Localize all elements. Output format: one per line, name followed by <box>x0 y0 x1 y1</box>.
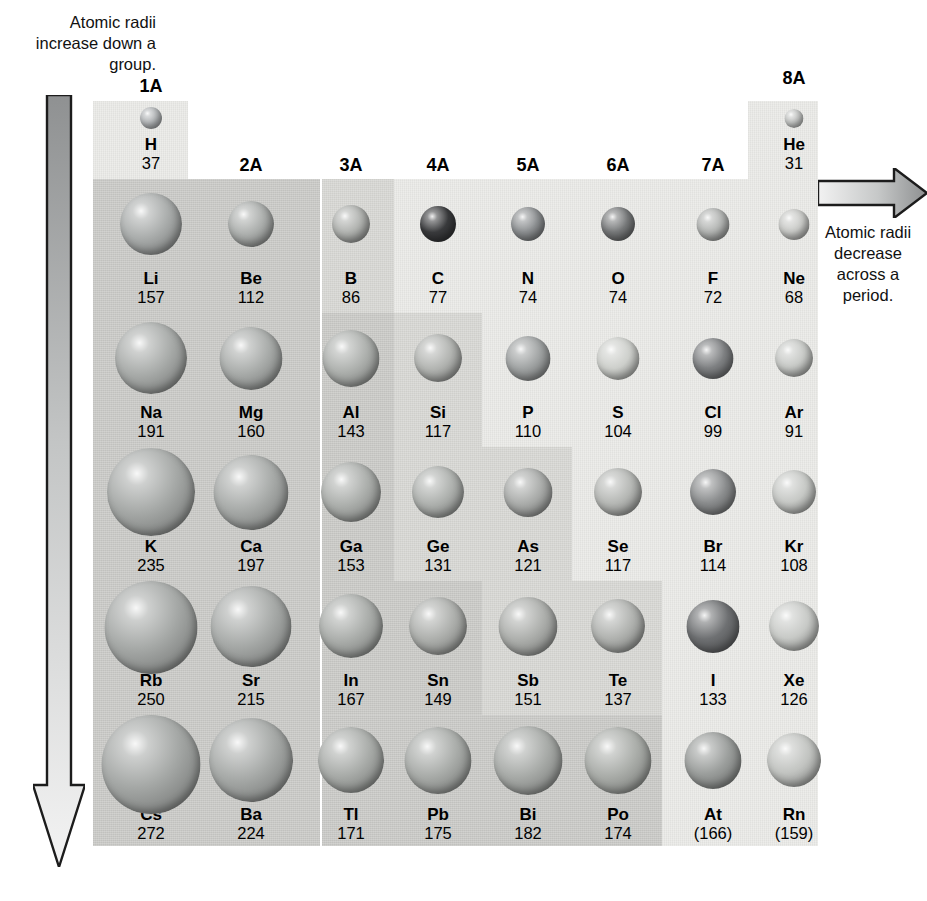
element-radius-value: 224 <box>205 824 297 843</box>
element-cell-ba[interactable]: Ba224 <box>205 715 297 843</box>
element-symbol: Al <box>305 403 397 422</box>
element-cell-ga[interactable]: Ga153 <box>305 447 397 575</box>
element-radius-value: 112 <box>205 288 297 307</box>
atom-sphere-s <box>597 337 640 380</box>
atom-sphere-he <box>785 109 804 128</box>
element-cell-al[interactable]: Al143 <box>305 313 397 441</box>
element-symbol: As <box>482 537 574 556</box>
element-symbol: Sn <box>392 671 484 690</box>
element-symbol: B <box>305 269 397 288</box>
element-symbol: Sb <box>482 671 574 690</box>
element-cell-si[interactable]: Si117 <box>392 313 484 441</box>
element-cell-ge[interactable]: Ge131 <box>392 447 484 575</box>
element-cell-n[interactable]: N74 <box>482 179 574 307</box>
element-radius-value: 31 <box>748 154 840 173</box>
element-radius-value: 151 <box>482 690 574 709</box>
element-cell-xe[interactable]: Xe126 <box>748 581 840 709</box>
element-symbol: Sr <box>205 671 297 690</box>
element-cell-kr[interactable]: Kr108 <box>748 447 840 575</box>
sphere-area <box>305 715 397 805</box>
atom-sphere-f <box>697 208 730 241</box>
sphere-area <box>392 447 484 537</box>
sphere-area <box>482 715 574 805</box>
atom-sphere-bi <box>494 726 563 795</box>
atom-sphere-rn <box>767 733 821 787</box>
sphere-area <box>305 447 397 537</box>
element-cell-ne[interactable]: Ne68 <box>748 179 840 307</box>
atom-sphere-ne <box>779 209 810 240</box>
element-radius-value: 160 <box>205 422 297 441</box>
group-header-3a: 3A <box>321 155 381 176</box>
element-cell-cl[interactable]: Cl99 <box>667 313 759 441</box>
atom-sphere-i <box>687 600 740 653</box>
element-cell-in[interactable]: In167 <box>305 581 397 709</box>
sphere-area <box>748 313 840 403</box>
element-radius-value: (166) <box>667 824 759 843</box>
sphere-area <box>305 313 397 403</box>
element-cell-i[interactable]: I133 <box>667 581 759 709</box>
element-symbol: In <box>305 671 397 690</box>
atom-sphere-b <box>332 205 370 243</box>
element-cell-b[interactable]: B86 <box>305 179 397 307</box>
element-cell-te[interactable]: Te137 <box>572 581 664 709</box>
element-symbol: Rn <box>748 805 840 824</box>
element-cell-ca[interactable]: Ca197 <box>205 447 297 575</box>
element-symbol: S <box>572 403 664 422</box>
element-cell-p[interactable]: P110 <box>482 313 574 441</box>
sphere-area <box>748 447 840 537</box>
element-symbol: F <box>667 269 759 288</box>
element-radius-value: 117 <box>572 556 664 575</box>
element-cell-sr[interactable]: Sr215 <box>205 581 297 709</box>
element-cell-po[interactable]: Po174 <box>572 715 664 843</box>
annotation-down-a-group: Atomic radii increase down a group. <box>6 12 156 75</box>
atom-sphere-pb <box>405 727 472 794</box>
element-cell-rn[interactable]: Rn(159) <box>748 715 840 843</box>
element-cell-rb[interactable]: Rb250 <box>105 581 197 709</box>
element-radius-value: 137 <box>572 690 664 709</box>
element-cell-c[interactable]: C77 <box>392 179 484 307</box>
element-cell-s[interactable]: S104 <box>572 313 664 441</box>
element-symbol: I <box>667 671 759 690</box>
element-cell-bi[interactable]: Bi182 <box>482 715 574 843</box>
element-cell-sn[interactable]: Sn149 <box>392 581 484 709</box>
atom-sphere-o <box>601 207 635 241</box>
element-cell-br[interactable]: Br114 <box>667 447 759 575</box>
sphere-area <box>105 581 197 671</box>
element-symbol: Ca <box>205 537 297 556</box>
sphere-area <box>482 581 574 671</box>
element-cell-he[interactable]: He31 <box>748 101 840 173</box>
element-cell-pb[interactable]: Pb175 <box>392 715 484 843</box>
element-symbol: Pb <box>392 805 484 824</box>
sphere-area <box>205 715 297 805</box>
element-cell-k[interactable]: K235 <box>105 447 197 575</box>
element-cell-se[interactable]: Se117 <box>572 447 664 575</box>
element-cell-o[interactable]: O74 <box>572 179 664 307</box>
element-cell-h[interactable]: H37 <box>105 101 197 173</box>
atom-sphere-c <box>420 206 456 242</box>
sphere-area <box>205 179 297 269</box>
element-cell-li[interactable]: Li157 <box>105 179 197 307</box>
atom-sphere-cs <box>102 715 201 814</box>
element-cell-sb[interactable]: Sb151 <box>482 581 574 709</box>
element-symbol: P <box>482 403 574 422</box>
element-cell-as[interactable]: As121 <box>482 447 574 575</box>
group-header-7a: 7A <box>683 155 743 176</box>
element-cell-tl[interactable]: Tl171 <box>305 715 397 843</box>
element-cell-cs[interactable]: Cs272 <box>105 715 197 843</box>
element-radius-value: 37 <box>105 154 197 173</box>
element-cell-be[interactable]: Be112 <box>205 179 297 307</box>
sphere-area <box>572 447 664 537</box>
element-cell-na[interactable]: Na191 <box>105 313 197 441</box>
element-cell-mg[interactable]: Mg160 <box>205 313 297 441</box>
down-arrow-icon <box>33 95 85 867</box>
atom-sphere-xe <box>769 601 819 651</box>
element-cell-ar[interactable]: Ar91 <box>748 313 840 441</box>
element-symbol: Po <box>572 805 664 824</box>
element-symbol: Ga <box>305 537 397 556</box>
sphere-area <box>572 581 664 671</box>
element-cell-f[interactable]: F72 <box>667 179 759 307</box>
element-cell-at[interactable]: At(166) <box>667 715 759 843</box>
sphere-area <box>572 313 664 403</box>
atom-sphere-cl <box>693 338 734 379</box>
element-radius-value: 250 <box>105 690 197 709</box>
